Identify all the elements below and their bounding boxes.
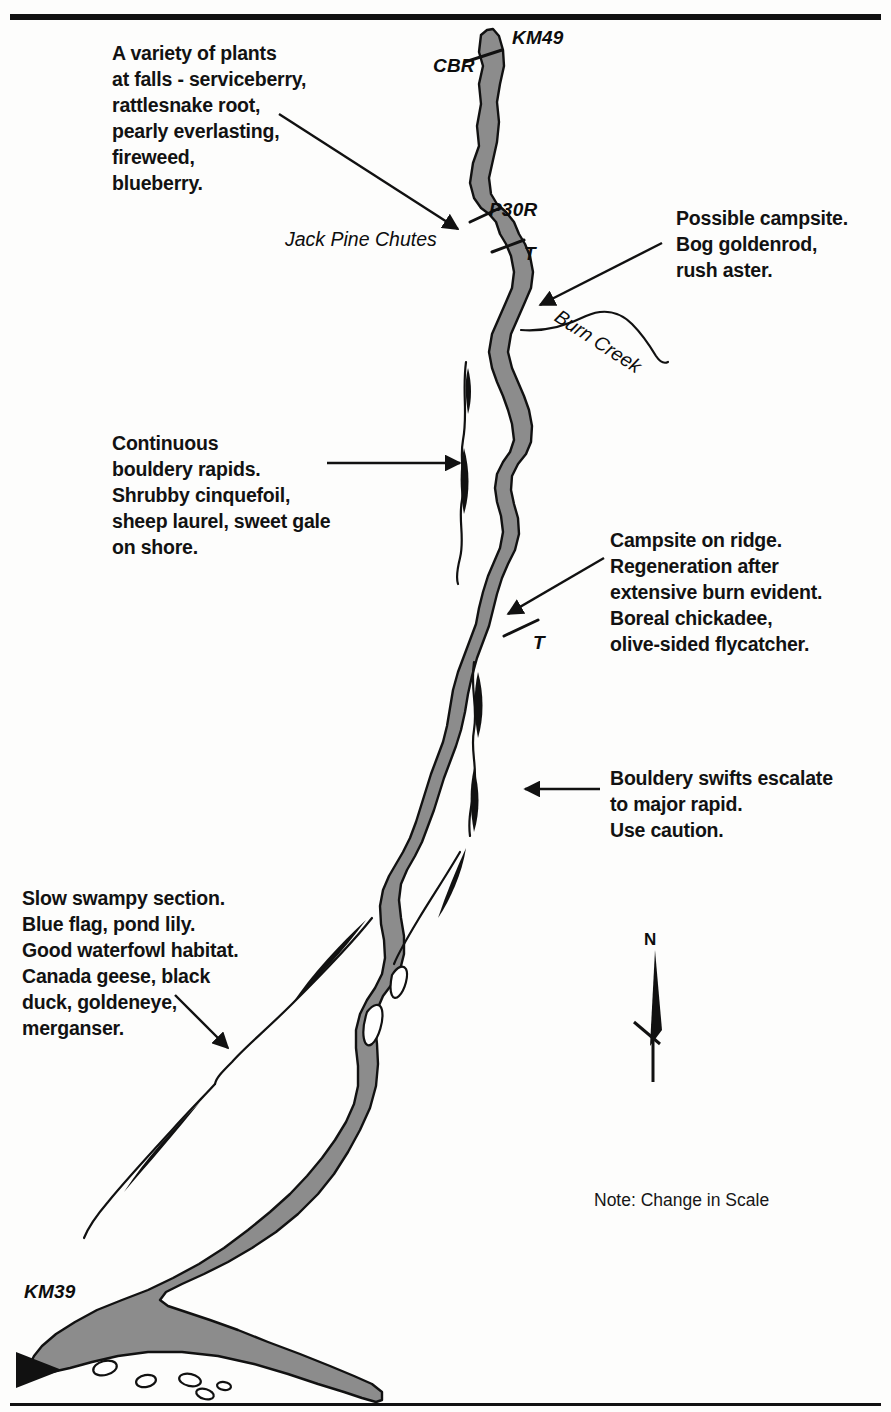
marker-label-portage-t-upper: T (524, 243, 536, 265)
estuary-island-5 (217, 1381, 232, 1391)
shoal-4 (471, 768, 479, 832)
estuary-islands (92, 1358, 232, 1401)
marker-label-km39: KM39 (24, 1281, 75, 1303)
marker-label-portage-t-lower: T (533, 632, 545, 654)
river-channel (31, 29, 533, 1402)
river-path (31, 29, 533, 1402)
note-campsite-on-ridge: Campsite on ridge. Regeneration after ex… (610, 527, 880, 657)
note-possible-campsite: Possible campsite. Bog goldenrod, rush a… (676, 205, 886, 283)
feature-label-jack-pine-chutes: Jack Pine Chutes (285, 228, 437, 251)
map-page: A variety of plants at falls - servicebe… (0, 0, 891, 1412)
note-plants-at-falls: A variety of plants at falls - servicebe… (112, 40, 412, 196)
note-slow-swampy: Slow swampy section. Blue flag, pond lil… (22, 885, 312, 1041)
north-arrow-icon (634, 950, 662, 1082)
leader-ridge (508, 558, 604, 614)
note-bouldery-swifts: Bouldery swifts escalate to major rapid.… (610, 765, 880, 843)
marker-label-cbr: CBR (433, 55, 475, 77)
leader-campsite (540, 243, 662, 305)
shoal-3 (475, 672, 483, 738)
estuary-island-3 (178, 1372, 202, 1388)
north-arrow-label: N (644, 930, 656, 950)
shoal-7 (124, 1102, 200, 1192)
estuary-island-2 (135, 1373, 157, 1388)
shoal-1 (466, 368, 471, 414)
estuary-island-4 (195, 1387, 215, 1402)
note-continuous-rapids: Continuous bouldery rapids. Shrubby cinq… (112, 430, 412, 560)
marker-label-km49: KM49 (512, 27, 563, 49)
marker-label-p30r: P30R (489, 199, 537, 221)
scale-change-note: Note: Change in Scale (594, 1190, 769, 1211)
